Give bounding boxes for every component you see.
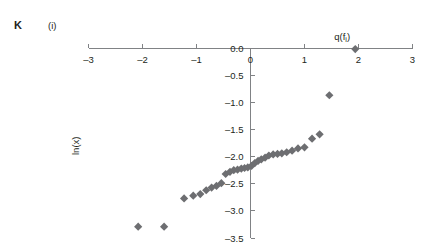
data-point <box>308 135 316 143</box>
x-tick-label: –2 <box>137 54 148 65</box>
y-tick-label: 0.0 <box>230 43 243 54</box>
figure-panel: K (i) –3–2–101230.0–0.5–1.0–1.5–2.0–2.5–… <box>0 0 441 248</box>
x-tick-label: 3 <box>410 54 415 65</box>
data-point <box>189 192 197 200</box>
data-series <box>134 45 359 231</box>
x-tick-label: –3 <box>83 54 94 65</box>
data-point <box>134 223 142 231</box>
data-point <box>316 130 324 138</box>
x-tick-label: 2 <box>356 54 361 65</box>
y-tick-label: –0.5 <box>225 70 244 81</box>
y-tick-label: –2.5 <box>225 178 244 189</box>
y-tick-label: –2.0 <box>225 151 244 162</box>
chart-canvas: –3–2–101230.0–0.5–1.0–1.5–2.0–2.5–3.0–3.… <box>0 0 441 248</box>
x-tick-label: 0 <box>248 54 253 65</box>
x-tick-label: –1 <box>191 54 202 65</box>
y-axis-label: ln(x) <box>70 137 81 155</box>
x-axis-label: q(fi) <box>334 31 350 44</box>
x-tick-label: 1 <box>302 54 307 65</box>
y-tick-label: –3.0 <box>225 205 244 216</box>
data-point <box>300 143 308 151</box>
y-tick-label: –1.0 <box>225 97 244 108</box>
y-tick-label: –1.5 <box>225 124 244 135</box>
data-point <box>180 194 188 202</box>
data-point <box>160 223 168 231</box>
x-axis-label-subscript: i <box>345 35 347 44</box>
data-point <box>325 91 333 99</box>
y-tick-label: –3.5 <box>225 233 244 244</box>
scatter-plot: –3–2–101230.0–0.5–1.0–1.5–2.0–2.5–3.0–3.… <box>0 0 441 248</box>
